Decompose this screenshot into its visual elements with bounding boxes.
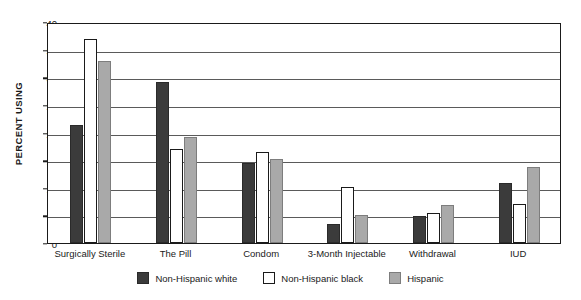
- legend-item: Non-Hispanic white: [137, 272, 237, 284]
- bar: [427, 213, 440, 243]
- gridline: [48, 135, 560, 136]
- bar: [341, 187, 354, 243]
- bar: [499, 183, 512, 243]
- bar-group: [413, 24, 454, 243]
- bar: [441, 205, 454, 243]
- legend-item: Hispanic: [389, 272, 443, 284]
- bar: [84, 39, 97, 243]
- bar: [355, 215, 368, 243]
- legend-label: Non-Hispanic white: [155, 273, 237, 284]
- bar: [513, 204, 526, 243]
- legend-swatch: [263, 272, 275, 284]
- legend-item: Non-Hispanic black: [263, 272, 363, 284]
- bar: [98, 61, 111, 243]
- gridline: [48, 217, 560, 218]
- bar: [256, 152, 269, 243]
- x-axis-tick-label: 3-Month Injectable: [308, 248, 386, 259]
- bar-group: [156, 24, 197, 243]
- gridline: [48, 79, 560, 80]
- bar: [413, 216, 426, 243]
- bar: [527, 167, 540, 243]
- bar: [170, 149, 183, 243]
- gridline: [48, 52, 560, 53]
- legend-swatch: [389, 272, 401, 284]
- gridline: [48, 190, 560, 191]
- legend-label: Hispanic: [407, 273, 443, 284]
- bar-group: [70, 24, 111, 243]
- bar: [156, 82, 169, 243]
- bar-group: [242, 24, 283, 243]
- bar: [327, 224, 340, 243]
- bar: [184, 137, 197, 243]
- x-axis-tick-label: The Pill: [160, 248, 192, 259]
- y-axis-title: PERCENT USING: [13, 64, 24, 184]
- legend-label: Non-Hispanic black: [281, 273, 363, 284]
- plot-area: [47, 23, 561, 244]
- bar-group: [499, 24, 540, 243]
- x-axis-tick-label: Surgically Sterile: [54, 248, 125, 259]
- bar-group: [327, 24, 368, 243]
- gridline: [48, 107, 560, 108]
- bar: [70, 125, 83, 243]
- bar: [270, 159, 283, 243]
- bar-chart: PERCENT USING 0510152025303540 Surgicall…: [0, 0, 581, 300]
- x-axis-tick-label: IUD: [510, 248, 526, 259]
- bar: [242, 163, 255, 243]
- legend-swatch: [137, 272, 149, 284]
- gridline: [48, 162, 560, 163]
- x-axis-tick-label: Withdrawal: [409, 248, 456, 259]
- x-axis-tick-label: Condom: [243, 248, 279, 259]
- legend: Non-Hispanic whiteNon-Hispanic blackHisp…: [0, 272, 581, 284]
